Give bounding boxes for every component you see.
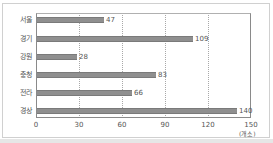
category-label: 전라 xyxy=(2,89,32,97)
value-label: 140 xyxy=(239,107,252,115)
bar-gyeonggi xyxy=(37,36,193,42)
category-label: 서울 xyxy=(2,16,32,24)
category-label: 경기 xyxy=(2,35,32,43)
category-label: 충청 xyxy=(2,71,32,79)
x-tick: 30 xyxy=(69,121,89,129)
bar-gyeongsang xyxy=(37,108,237,114)
x-tick: 90 xyxy=(155,121,175,129)
x-tick: 0 xyxy=(26,121,46,129)
x-tick: 120 xyxy=(198,121,218,129)
value-label: 66 xyxy=(134,89,143,97)
value-label: 109 xyxy=(195,35,208,43)
bar-seoul xyxy=(37,17,104,23)
x-axis-unit: (개소) xyxy=(239,130,256,137)
bar-chungcheong xyxy=(37,72,156,78)
x-tick: 60 xyxy=(112,121,132,129)
value-label: 47 xyxy=(106,16,115,24)
bottom-strip xyxy=(0,139,273,143)
bar-jeolla xyxy=(37,90,132,96)
value-label: 83 xyxy=(158,71,167,79)
bar-gangwon xyxy=(37,54,77,60)
x-tick: 150 xyxy=(241,121,261,129)
plot-area xyxy=(36,13,251,118)
value-label: 28 xyxy=(79,53,88,61)
category-label: 경상 xyxy=(2,107,32,115)
category-label: 강원 xyxy=(2,53,32,61)
